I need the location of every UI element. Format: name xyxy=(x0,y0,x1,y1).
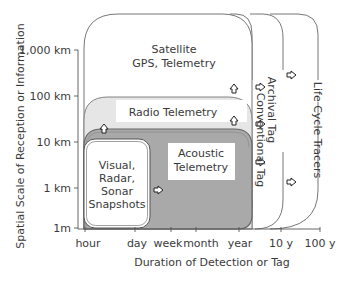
diagram: Satellite GPS, Telemetry Radio Telemetry… xyxy=(0,0,349,282)
x-axis-title: Duration of Detection or Tag xyxy=(134,256,290,269)
life-cycle-label: Life Cycle Tracers xyxy=(311,82,324,179)
visual-label-1: Visual, xyxy=(99,159,135,172)
visual-label-2: Radar, xyxy=(99,172,135,185)
y-tick-10km: 10 km xyxy=(36,136,71,149)
acoustic-label-2: Telemetry xyxy=(173,161,229,174)
x-tick-100y: 100 y xyxy=(304,237,335,250)
x-tick-week: week xyxy=(154,237,184,250)
acoustic-label-1: Acoustic xyxy=(178,147,224,160)
x-tick-10y: 10 y xyxy=(269,237,293,250)
x-tick-month: month xyxy=(183,237,219,250)
x-tick-hour: hour xyxy=(75,237,101,250)
y-tick-1m: 1m xyxy=(53,222,71,235)
x-tick-day: day xyxy=(127,237,148,250)
x-tick-year: year xyxy=(228,237,253,250)
y-tick-100km: 100 km xyxy=(29,90,71,103)
y-axis-title: Spatial Scale of Reception or Informatio… xyxy=(14,23,27,248)
arrow-right-icon xyxy=(287,178,296,186)
visual-label-3: Sonar xyxy=(101,185,133,198)
satellite-label-1: Satellite xyxy=(151,43,196,56)
arrow-right-icon xyxy=(256,83,265,91)
arrow-right-icon xyxy=(287,71,296,79)
radio-label: Radio Telemetry xyxy=(129,106,218,119)
visual-label-4: Snapshots xyxy=(88,198,145,211)
conventional-tag-label: Conventional Tag xyxy=(254,93,267,188)
y-tick-1km: 1 km xyxy=(43,182,71,195)
satellite-label-2: GPS, Telemetry xyxy=(132,57,216,70)
